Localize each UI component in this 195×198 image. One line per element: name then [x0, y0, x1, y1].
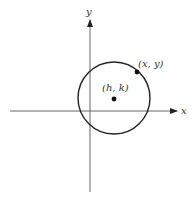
circle-diagram: y x (h, k) (x, y) — [0, 0, 195, 198]
circle-point-label: (x, y) — [138, 58, 164, 69]
x-axis-label: x — [181, 105, 187, 116]
y-axis-label: y — [85, 6, 92, 17]
circle-point — [135, 70, 140, 75]
center-point — [112, 97, 117, 102]
center-point-label: (h, k) — [102, 82, 129, 93]
